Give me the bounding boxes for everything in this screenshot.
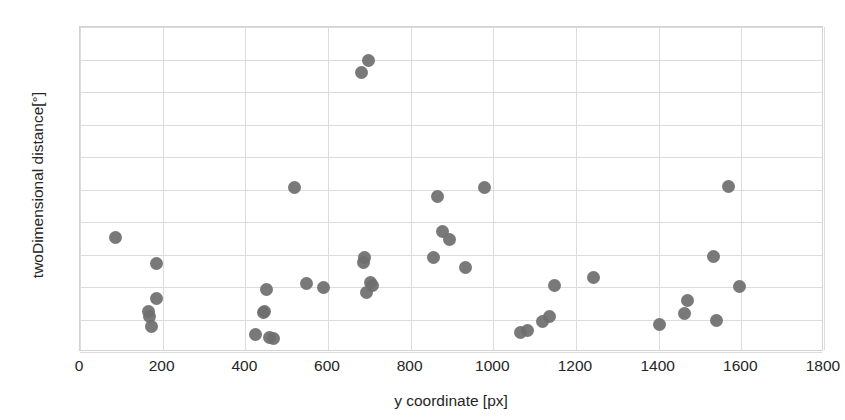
data-point [109,231,122,244]
data-point [733,280,746,293]
scatter-chart: twoDimensional distance[°] 00,511,522,53… [0,0,845,420]
data-point [431,190,444,203]
data-point [358,251,371,264]
data-point [145,320,158,333]
data-point [443,233,456,246]
data-point [427,251,440,264]
data-point [150,257,163,270]
gridline-vertical [741,27,742,350]
data-point [150,292,163,305]
gridline-vertical [411,27,412,350]
gridline-vertical [163,27,164,350]
data-point [459,261,472,274]
data-point [653,318,666,331]
x-axis-tick-label: 600 [297,358,357,374]
data-point [681,294,694,307]
x-axis-tick-label: 1200 [545,358,605,374]
x-axis-tick-label: 0 [49,358,109,374]
x-axis-tick-label: 800 [380,358,440,374]
gridline-horizontal [80,60,822,61]
gridline-vertical [328,27,329,350]
gridline-horizontal [80,190,822,191]
data-point [707,250,720,263]
y-axis-title: twoDimensional distance[°] [29,15,47,355]
data-point [260,283,273,296]
data-point [258,305,271,318]
x-axis-tick-label: 1600 [710,358,770,374]
x-axis-tick-label: 1800 [793,358,845,374]
data-point [548,279,561,292]
gridline-vertical [824,27,825,350]
gridline-horizontal [80,125,822,126]
gridline-vertical [659,27,660,350]
gridline-horizontal [80,222,822,223]
gridline-horizontal [80,92,822,93]
gridline-horizontal [80,27,822,28]
data-point [722,180,735,193]
gridline-vertical [493,27,494,350]
data-point [300,277,313,290]
data-point [710,314,723,327]
data-point [587,271,600,284]
x-axis-tick-label: 200 [132,358,192,374]
gridline-horizontal [80,287,822,288]
x-axis-tick-label: 400 [214,358,274,374]
gridline-vertical [80,27,81,350]
data-point [267,332,280,345]
x-axis-tick-label: 1400 [628,358,688,374]
data-point [521,324,534,337]
data-point [543,310,556,323]
x-axis-tick-label: 1000 [462,358,522,374]
data-point [249,328,262,341]
gridline-horizontal [80,352,822,353]
data-point [478,181,491,194]
data-point [355,66,368,79]
x-axis-title: y coordinate [px] [79,392,823,410]
data-point [317,281,330,294]
data-point [678,307,691,320]
plot-area [79,26,823,351]
gridline-vertical [576,27,577,350]
data-point [362,54,375,67]
data-point [288,181,301,194]
gridline-vertical [245,27,246,350]
gridline-horizontal [80,157,822,158]
data-point [366,279,379,292]
